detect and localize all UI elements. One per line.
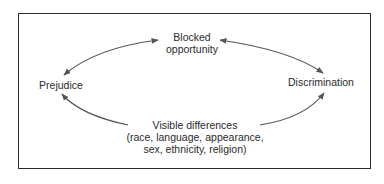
node-blocked-line1: Blocked: [152, 31, 232, 43]
arrow-visible-prejudice: [62, 94, 128, 125]
node-visible-line3: sex, ethnicity, religion): [120, 143, 270, 155]
node-blocked-line2: opportunity: [152, 43, 232, 55]
node-blocked-opportunity: Blocked opportunity: [152, 31, 232, 55]
arrow-blocked-prejudice: [64, 40, 158, 75]
arrows-layer: [0, 0, 384, 184]
arrow-blocked-discrimination: [220, 40, 323, 73]
node-prejudice: Prejudice: [36, 79, 86, 91]
node-discrimination: Discrimination: [285, 76, 357, 88]
node-visible-differences: Visible differences (race, language, app…: [120, 119, 270, 155]
node-visible-line2: (race, language, appearance,: [120, 131, 270, 143]
node-visible-line1: Visible differences: [120, 119, 270, 131]
